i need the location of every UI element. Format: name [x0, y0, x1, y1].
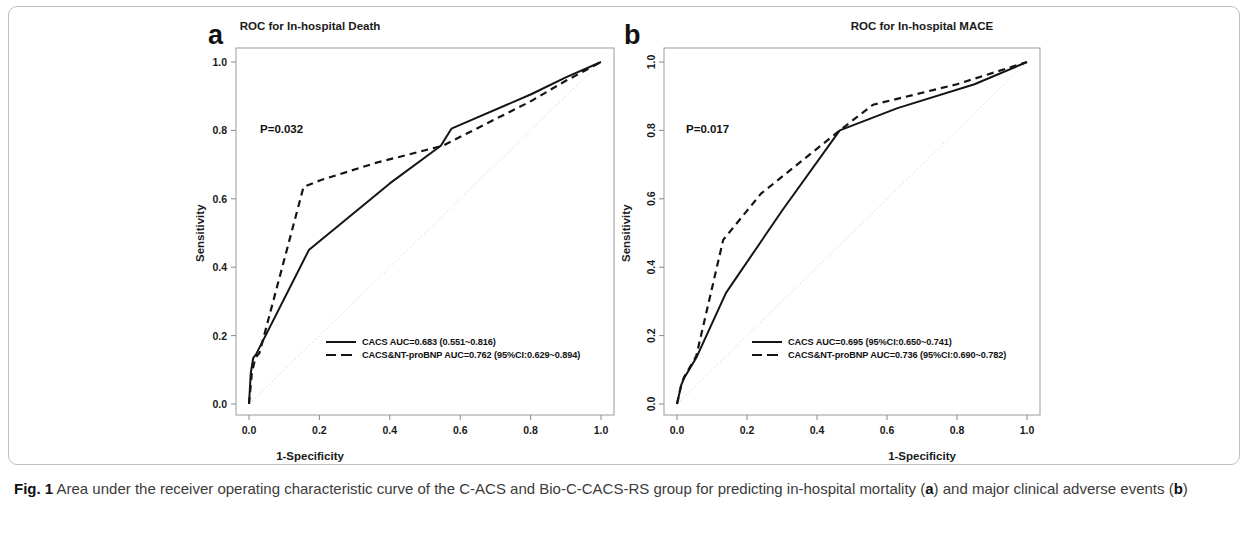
x-tick-label: 0.2	[740, 424, 755, 436]
legend-key-solid-line-icon	[326, 336, 356, 347]
legend-label-cacs: CACS AUC=0.683 (0.551~0.816)	[362, 337, 496, 347]
x-tick-label: 0.6	[453, 424, 468, 436]
figure-container: a ROC for In-hospital Death 0.00.20.40.6…	[0, 0, 1254, 536]
y-tick-label: 0.6	[212, 193, 227, 205]
x-tick-label: 0.6	[880, 424, 895, 436]
y-tick-label: 0.8	[212, 124, 227, 136]
x-tick-label: 0.0	[242, 424, 257, 436]
y-tick-label: 0.4	[212, 261, 227, 273]
panel-b-pvalue: P=0.017	[686, 123, 729, 135]
roc-plot-a: 0.00.20.40.60.81.00.00.20.40.60.81.0	[4, 0, 616, 459]
legend-key-solid-line-icon	[752, 336, 782, 347]
x-tick-label: 0.8	[950, 424, 965, 436]
caption-ref-a: a	[925, 480, 933, 497]
y-tick-label: 0.6	[645, 191, 657, 206]
y-tick-label: 0.0	[212, 398, 227, 410]
y-tick-label: 0.0	[645, 397, 657, 412]
panel-a-pvalue: P=0.032	[260, 123, 303, 135]
panel-b-x-axis-title: 1-Specificity	[616, 450, 1228, 462]
y-tick-label: 0.8	[645, 123, 657, 138]
y-tick-label: 0.4	[645, 260, 657, 275]
panel-a: a ROC for In-hospital Death 0.00.20.40.6…	[4, 0, 616, 459]
x-tick-label: 0.0	[670, 424, 685, 436]
panel-b: b ROC for In-hospital MACE 0.00.20.40.60…	[616, 0, 1228, 459]
caption-text-part1: Area under the receiver operating charac…	[53, 480, 925, 497]
legend-label-cacs-ntprobnp: CACS&NT-proBNP AUC=0.762 (95%CI:0.629~0.…	[362, 350, 580, 360]
legend-label-cacs-ntprobnp: CACS&NT-proBNP AUC=0.736 (95%CI:0.690~0.…	[788, 350, 1006, 360]
caption-text-part3: )	[1183, 480, 1188, 497]
legend-item-cacs: CACS AUC=0.683 (0.551~0.816)	[326, 335, 580, 348]
x-tick-label: 1.0	[1020, 424, 1035, 436]
y-tick-label: 1.0	[645, 55, 657, 70]
roc-plot-b: 0.00.20.40.60.81.00.00.20.40.60.81.0	[616, 0, 1228, 459]
panel-a-y-axis-title: Sensitivity	[194, 204, 206, 262]
x-tick-label: 0.4	[810, 424, 825, 436]
caption-text-part2: ) and major clinical adverse events (	[934, 480, 1174, 497]
x-tick-label: 0.2	[312, 424, 327, 436]
x-tick-label: 1.0	[594, 424, 609, 436]
panel-a-legend: CACS AUC=0.683 (0.551~0.816) CACS&NT-pro…	[326, 335, 580, 361]
caption-figure-number: Fig. 1	[14, 480, 53, 497]
y-tick-label: 1.0	[212, 56, 227, 68]
legend-item-cacs-ntprobnp: CACS&NT-proBNP AUC=0.762 (95%CI:0.629~0.…	[326, 348, 580, 361]
figure-caption: Fig. 1 Area under the receiver operating…	[14, 476, 1244, 501]
panel-a-x-axis-title: 1-Specificity	[4, 450, 616, 462]
y-tick-label: 0.2	[212, 330, 227, 342]
legend-key-dashed-line-icon	[752, 349, 782, 360]
panel-b-y-axis-title: Sensitivity	[620, 204, 632, 262]
legend-item-cacs-ntprobnp: CACS&NT-proBNP AUC=0.736 (95%CI:0.690~0.…	[752, 348, 1006, 361]
caption-ref-b: b	[1174, 480, 1183, 497]
legend-label-cacs: CACS AUC=0.695 (95%CI:0.650~0.741)	[788, 337, 952, 347]
x-tick-label: 0.4	[382, 424, 397, 436]
y-tick-label: 0.2	[645, 328, 657, 343]
panel-b-legend: CACS AUC=0.695 (95%CI:0.650~0.741) CACS&…	[752, 335, 1006, 361]
legend-key-dashed-line-icon	[326, 349, 356, 360]
legend-item-cacs: CACS AUC=0.695 (95%CI:0.650~0.741)	[752, 335, 1006, 348]
x-tick-label: 0.8	[523, 424, 538, 436]
